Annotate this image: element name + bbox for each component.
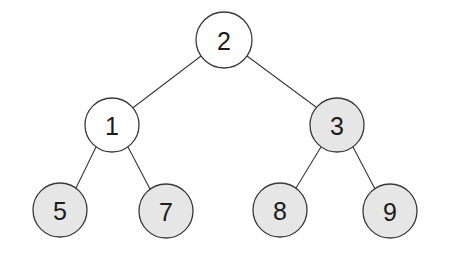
node-label-7: 7 <box>159 198 173 226</box>
tree-node-3[interactable]: 3 <box>310 98 364 152</box>
node-label-8: 8 <box>273 197 287 225</box>
node-label-2: 2 <box>217 27 231 55</box>
tree-node-5[interactable]: 5 <box>33 183 87 237</box>
node-layer: 2135789 <box>33 12 417 238</box>
tree-node-7[interactable]: 7 <box>139 184 193 238</box>
tree-edge-n2-n3 <box>247 56 320 110</box>
tree-canvas: 2135789 <box>0 0 449 253</box>
tree-edge-n1-n7 <box>128 147 150 189</box>
tree-edge-n1-n5 <box>76 147 96 188</box>
node-label-1: 1 <box>105 112 119 140</box>
tree-node-2[interactable]: 2 <box>196 12 252 68</box>
tree-diagram: 2135789 <box>0 0 449 253</box>
node-label-5: 5 <box>53 197 67 225</box>
tree-node-1[interactable]: 1 <box>85 98 139 152</box>
tree-edge-n3-n8 <box>296 147 321 188</box>
tree-node-8[interactable]: 8 <box>253 183 307 237</box>
tree-edge-n2-n1 <box>130 56 201 110</box>
tree-edge-n3-n9 <box>353 147 375 189</box>
node-label-3: 3 <box>330 112 344 140</box>
tree-node-9[interactable]: 9 <box>363 184 417 238</box>
node-label-9: 9 <box>383 198 397 226</box>
